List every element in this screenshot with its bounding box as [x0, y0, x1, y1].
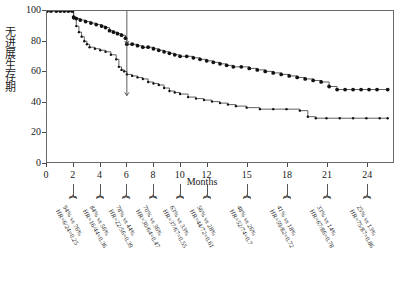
censor-mark — [89, 21, 93, 25]
censor-mark — [118, 66, 120, 68]
censor-mark — [130, 42, 134, 46]
censor-mark — [80, 35, 82, 37]
censor-mark — [295, 76, 299, 80]
censor-mark — [211, 60, 215, 64]
censor-mark — [178, 54, 182, 58]
censor-mark — [198, 57, 202, 61]
censor-mark — [104, 26, 108, 30]
censor-mark — [75, 25, 77, 27]
censor-mark — [218, 62, 222, 66]
censor-mark — [108, 29, 112, 33]
annotation-text: 25% vs 13%HR=75/87=0.86 — [349, 204, 383, 249]
censor-mark — [146, 45, 150, 49]
censor-mark — [83, 40, 85, 42]
y-tick-label: 60 — [31, 66, 41, 76]
censor-mark — [307, 116, 309, 118]
censor-mark — [285, 108, 287, 110]
censor-mark — [231, 65, 235, 69]
annotation-layer: ⏞94% vs 76%HR=6/24=0.25⏞84% vs 56%HR=16/… — [0, 163, 404, 290]
censor-mark — [112, 30, 116, 34]
censor-mark — [315, 117, 317, 119]
censor-mark — [94, 23, 98, 27]
y-tick-label: 100 — [26, 5, 41, 15]
censor-mark — [195, 97, 197, 99]
y-tick-label: 20 — [31, 127, 41, 137]
censor-mark — [255, 68, 259, 72]
censor-mark — [62, 11, 66, 13]
censor-mark — [245, 106, 247, 108]
annotation-text: 48% vs 26%HR=52/74=0.7 — [228, 204, 261, 246]
censor-mark — [88, 46, 90, 48]
censor-mark — [158, 84, 160, 86]
survival-curves — [47, 11, 393, 162]
censor-mark — [162, 50, 166, 54]
censor-mark — [174, 91, 176, 93]
plot-area — [46, 10, 394, 163]
censor-mark — [120, 33, 124, 37]
y-tick-label: 80 — [31, 36, 41, 46]
censor-mark — [379, 117, 381, 119]
censor-mark — [168, 90, 170, 92]
censor-mark — [279, 73, 283, 77]
censor-mark — [179, 93, 181, 95]
censor-mark — [287, 74, 291, 78]
censor-mark — [54, 11, 58, 13]
censor-mark — [136, 76, 138, 78]
censor-mark — [78, 31, 80, 33]
censor-mark — [123, 70, 125, 72]
censor-mark — [311, 79, 315, 83]
censor-mark — [120, 69, 122, 71]
censor-mark — [157, 48, 161, 52]
censor-mark — [74, 17, 78, 21]
censor-mark — [152, 82, 154, 84]
curve-upper-curve — [47, 11, 388, 90]
censor-mark — [84, 20, 88, 24]
censor-mark — [147, 81, 149, 83]
censor-mark — [335, 88, 339, 92]
censor-mark — [49, 11, 53, 13]
censor-mark — [163, 87, 165, 89]
censor-mark — [131, 75, 133, 77]
censor-mark — [339, 117, 341, 119]
censor-mark — [359, 88, 363, 92]
censor-mark — [187, 96, 189, 98]
censor-mark — [235, 105, 237, 107]
censor-mark — [271, 71, 275, 75]
censor-mark — [263, 70, 267, 74]
censor-mark — [343, 88, 347, 92]
censor-mark — [259, 108, 261, 110]
censor-mark — [141, 45, 145, 49]
censor-mark — [375, 88, 379, 92]
censor-mark — [168, 51, 172, 55]
censor-mark — [225, 63, 229, 67]
censor-mark — [66, 11, 70, 13]
annotation-text: 33% vs 14%HR=67/86=0.78 — [309, 204, 343, 249]
censor-mark — [351, 88, 355, 92]
censor-mark — [136, 44, 140, 48]
censor-mark — [110, 54, 112, 56]
censor-mark — [104, 51, 106, 53]
censor-mark — [115, 58, 117, 60]
censor-mark — [352, 117, 354, 119]
censor-mark — [386, 117, 388, 119]
censor-mark — [219, 102, 221, 104]
censor-mark — [72, 17, 74, 19]
y-axis-title: 无进展生存期 — [2, 26, 16, 92]
annotation-text: 41% vs 18%HR=59/82=0.72 — [269, 204, 303, 249]
censor-mark — [191, 56, 195, 60]
censor-mark — [365, 117, 367, 119]
censor-mark — [205, 59, 209, 63]
censor-mark — [211, 100, 213, 102]
censor-mark — [227, 103, 229, 105]
curve-lower-curve — [47, 11, 388, 118]
censor-mark — [386, 88, 390, 92]
censor-mark — [142, 78, 144, 80]
censor-mark — [100, 24, 104, 28]
censor-mark — [325, 117, 327, 119]
censor-mark — [78, 18, 82, 22]
censor-mark — [173, 53, 177, 57]
censor-mark — [152, 47, 156, 51]
censor-mark — [367, 88, 371, 92]
chart-root: 无进展生存期 020406080100 02468101215182124 Mo… — [0, 0, 404, 290]
censor-mark — [299, 109, 301, 111]
